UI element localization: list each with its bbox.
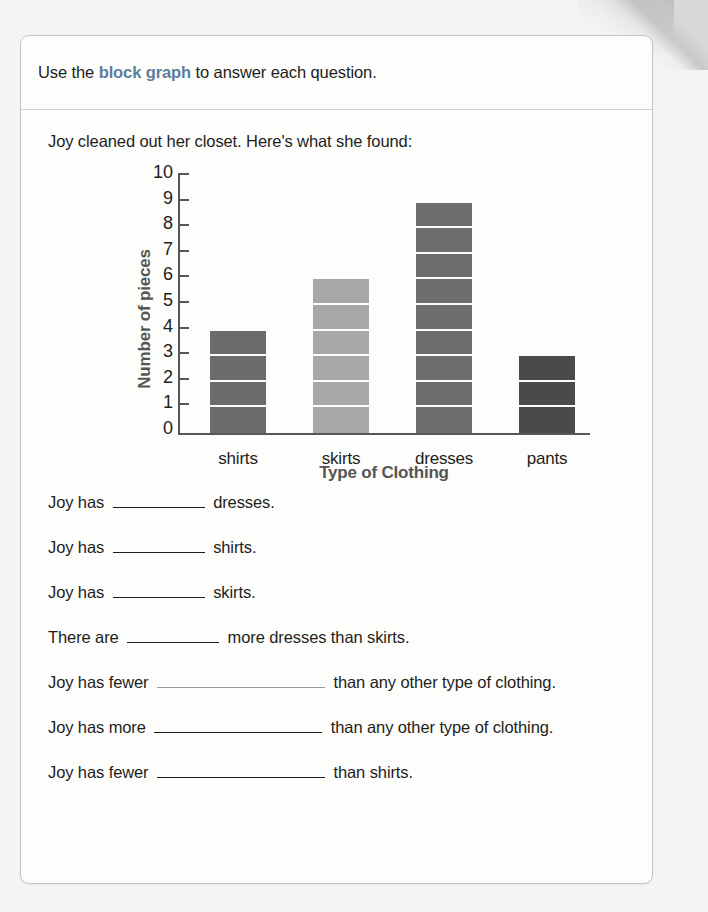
plot-area: 012345678910 shirtsskirtsdressespants	[178, 173, 598, 441]
bar-block	[313, 305, 369, 331]
worksheet-card: Use the block graph to answer each quest…	[20, 35, 653, 884]
bar-block	[416, 356, 472, 382]
question-q7: Joy has fewer than shirts.	[48, 762, 635, 782]
bar-skirts	[313, 279, 369, 433]
prompt-text: Joy cleaned out her closet. Here's what …	[48, 132, 635, 151]
y-tick-mark	[180, 352, 189, 354]
bar-block	[416, 382, 472, 408]
y-tick-label: 0	[147, 418, 173, 438]
directions-term-block-graph: block graph	[99, 63, 191, 81]
y-tick-mark	[180, 224, 189, 226]
y-tick-mark	[180, 378, 189, 380]
y-tick-label: 9	[147, 188, 173, 208]
bar-block	[210, 356, 266, 382]
bar-block	[416, 279, 472, 305]
y-tick-mark	[180, 173, 189, 175]
question-q6: Joy has more than any other type of clot…	[48, 717, 635, 737]
question-text-after: dresses.	[209, 493, 275, 511]
question-text-after: skirts.	[209, 583, 256, 601]
question-text-after: more dresses than skirts.	[223, 628, 409, 646]
bar-block	[519, 356, 575, 382]
question-text-before: Joy has more	[48, 718, 150, 736]
block-graph: Number of pieces 012345678910 shirtsskir…	[52, 159, 638, 484]
card-body: Joy cleaned out her closet. Here's what …	[21, 110, 652, 782]
answer-blank-q5[interactable]	[157, 672, 325, 688]
y-tick-label: 8	[147, 213, 173, 233]
x-axis-title: Type of Clothing	[178, 463, 590, 483]
bar-block	[313, 331, 369, 357]
y-tick-label: 7	[147, 239, 173, 259]
y-tick-label: 6	[147, 264, 173, 284]
y-axis-line	[178, 173, 180, 435]
y-tick-label: 1	[147, 392, 173, 412]
y-tick-mark	[180, 403, 189, 405]
y-tick-mark	[180, 250, 189, 252]
bar-block	[519, 407, 575, 433]
answer-blank-q7[interactable]	[157, 762, 325, 778]
answer-blank-q6[interactable]	[154, 717, 322, 733]
bar-block	[416, 331, 472, 357]
bar-block	[416, 254, 472, 280]
question-q4: There are more dresses than skirts.	[48, 627, 635, 647]
bar-block	[416, 228, 472, 254]
y-tick-label: 3	[147, 341, 173, 361]
directions-text: Use the block graph to answer each quest…	[38, 63, 377, 82]
bar-block	[416, 203, 472, 229]
y-tick-mark	[180, 301, 189, 303]
y-tick-mark	[180, 199, 189, 201]
x-axis-line	[178, 433, 590, 435]
bar-dresses	[416, 203, 472, 433]
bar-block	[313, 382, 369, 408]
bar-shirts	[210, 331, 266, 433]
question-text-before: There are	[48, 628, 123, 646]
bar-block	[416, 407, 472, 433]
bar-pants	[519, 356, 575, 433]
y-tick-mark	[180, 275, 189, 277]
bar-block	[519, 382, 575, 408]
answer-blank-q4[interactable]	[127, 627, 219, 643]
bar-block	[313, 407, 369, 433]
y-tick-label: 2	[147, 367, 173, 387]
answer-blank-q1[interactable]	[113, 492, 205, 508]
directions-suffix: to answer each question.	[191, 63, 377, 81]
answer-blank-q3[interactable]	[113, 582, 205, 598]
directions-row: Use the block graph to answer each quest…	[21, 36, 652, 110]
question-text-before: Joy has fewer	[48, 763, 153, 781]
questions-list: Joy has dresses.Joy has shirts.Joy has s…	[48, 492, 635, 782]
question-q2: Joy has shirts.	[48, 537, 635, 557]
question-text-after: shirts.	[209, 538, 257, 556]
answer-blank-q2[interactable]	[113, 537, 205, 553]
bar-block	[416, 305, 472, 331]
question-q1: Joy has dresses.	[48, 492, 635, 512]
y-tick-label: 4	[147, 316, 173, 336]
bar-block	[210, 382, 266, 408]
question-q3: Joy has skirts.	[48, 582, 635, 602]
y-tick-label: 5	[147, 290, 173, 310]
question-text-after: than any other type of clothing.	[326, 718, 553, 736]
bar-block	[313, 279, 369, 305]
question-text-before: Joy has	[48, 583, 109, 601]
question-text-before: Joy has	[48, 538, 109, 556]
question-text-before: Joy has fewer	[48, 673, 153, 691]
question-text-after: than shirts.	[329, 763, 413, 781]
question-text-after: than any other type of clothing.	[329, 673, 556, 691]
y-tick-label: 10	[147, 162, 173, 182]
question-text-before: Joy has	[48, 493, 109, 511]
directions-prefix: Use the	[38, 63, 99, 81]
bar-block	[313, 356, 369, 382]
bar-block	[210, 331, 266, 357]
bar-block	[210, 407, 266, 433]
question-q5: Joy has fewer than any other type of clo…	[48, 672, 635, 692]
y-tick-mark	[180, 327, 189, 329]
